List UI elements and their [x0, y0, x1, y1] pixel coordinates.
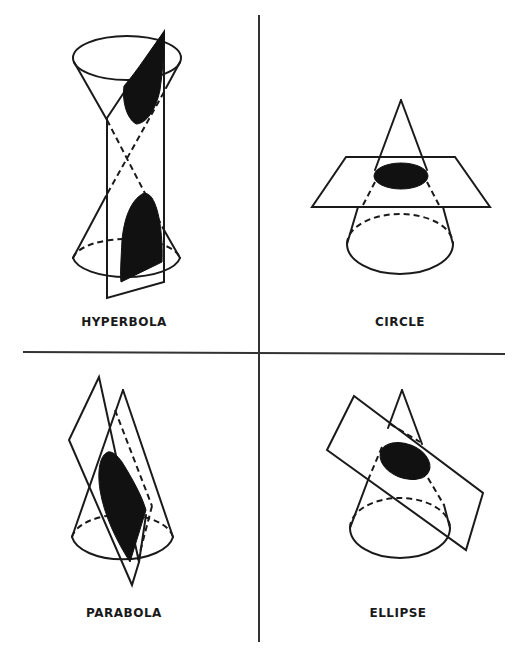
cone-hidden-left — [362, 182, 375, 207]
cone-right-side-lower — [443, 207, 453, 244]
hyperbola-upper-branch — [124, 32, 165, 124]
conic-sections-diagram — [0, 0, 526, 658]
cone-hidden-left — [368, 447, 382, 480]
cone-hidden-right — [427, 182, 440, 207]
cone-right-side-lower — [444, 505, 450, 528]
cone-right-side-upper — [402, 390, 422, 444]
circle-label: CIRCLE — [320, 315, 480, 329]
cone-base-front — [347, 244, 453, 274]
cone-base-back — [347, 214, 453, 244]
cone-left-side-lower — [350, 480, 368, 528]
circle-section — [374, 163, 428, 189]
cone-left-side-upper — [375, 100, 401, 170]
hyperbola-label: HYPERBOLA — [44, 315, 204, 329]
hyperbola-lower-branch — [121, 193, 163, 282]
upper-cone-right-side — [166, 62, 180, 88]
parabola-section — [99, 452, 146, 562]
circle-figure — [312, 100, 490, 274]
parabola-figure — [69, 377, 173, 585]
cone-right-side-upper — [401, 100, 427, 170]
upper-cone-left-side — [74, 62, 107, 120]
ellipse-figure — [327, 390, 483, 558]
cone-base-front — [350, 528, 450, 558]
cone-left-side-upper — [388, 390, 402, 428]
ellipse-section — [375, 435, 436, 486]
hyperbola-figure — [73, 32, 181, 298]
lower-cone-left-side — [73, 196, 106, 258]
horizontal-divider — [23, 352, 505, 354]
parabola-label: PARABOLA — [44, 606, 204, 620]
ellipse-label: ELLIPSE — [318, 606, 478, 620]
cone-left-side-lower — [347, 207, 358, 244]
cone-hidden-right — [428, 478, 444, 505]
